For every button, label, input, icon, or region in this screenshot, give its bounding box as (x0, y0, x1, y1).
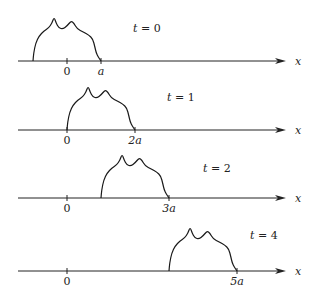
pulse-curve (169, 229, 237, 272)
tick-label: 5a (230, 275, 244, 288)
panel-t2: x03at = 2 (18, 156, 302, 216)
tick-label: 3a (162, 202, 176, 215)
x-axis-label: x (295, 55, 302, 68)
time-label: t = 1 (167, 91, 195, 104)
time-symbol: t (250, 229, 255, 242)
tick-label: 0 (64, 275, 71, 288)
time-symbol: t (203, 162, 208, 175)
time-label: t = 0 (133, 22, 161, 35)
tick-label: 0 (64, 65, 71, 78)
pulse-curve (101, 156, 169, 199)
time-symbol: t (167, 91, 172, 104)
tick-label: a (98, 65, 105, 78)
panel-t4: x05at = 4 (18, 229, 302, 289)
x-axis-label: x (295, 124, 302, 137)
panel-t1: x02at = 1 (18, 88, 302, 148)
pulse-curve (67, 88, 135, 131)
panel-t0: x0at = 0 (18, 19, 302, 79)
wave-pulse-diagram: x0at = 0x02at = 1x03at = 2x05at = 4 (0, 0, 316, 305)
tick-label: 2a (127, 134, 142, 147)
tick-label: 0 (64, 134, 71, 147)
x-axis-label: x (295, 192, 302, 205)
pulse-curve (33, 19, 101, 62)
time-label: t = 2 (203, 162, 231, 175)
tick-label: 0 (64, 202, 71, 215)
time-label: t = 4 (250, 229, 278, 242)
time-symbol: t (133, 22, 138, 35)
x-axis-label: x (295, 265, 302, 278)
